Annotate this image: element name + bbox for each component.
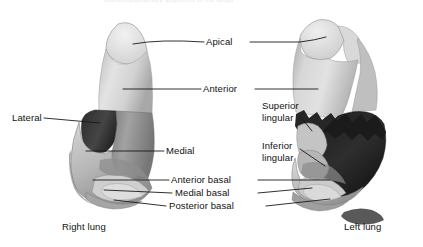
label-anterior-basal: Anterior basal	[171, 174, 231, 185]
label-inferior-lingular-line1: Inferior	[262, 140, 292, 151]
label-lateral: Lateral	[12, 112, 42, 123]
label-medial: Medial	[166, 145, 195, 156]
label-medial-basal: Medial basal	[175, 187, 230, 198]
right-lung-lateral-segment	[81, 110, 117, 153]
label-left-lung: Left lung	[344, 221, 381, 232]
label-inferior-lingular-line2: lingular	[262, 152, 293, 163]
left-lung-apical-segment	[300, 20, 344, 60]
label-right-lung: Right lung	[62, 221, 106, 232]
label-posterior-basal: Posterior basal	[169, 200, 234, 211]
right-lung-graphic	[69, 23, 154, 209]
label-apical: Apical	[206, 36, 232, 47]
label-superior-lingular-line2: lingular	[262, 112, 293, 123]
label-superior-lingular: Superior lingular	[262, 100, 308, 123]
label-anterior: Anterior	[203, 83, 237, 94]
label-inferior-lingular: Inferior lingular	[262, 140, 308, 163]
lung-anatomy-figure: Bronchopulmonary segments of the lungs	[0, 0, 423, 247]
label-superior-lingular-line1: Superior	[262, 100, 299, 111]
